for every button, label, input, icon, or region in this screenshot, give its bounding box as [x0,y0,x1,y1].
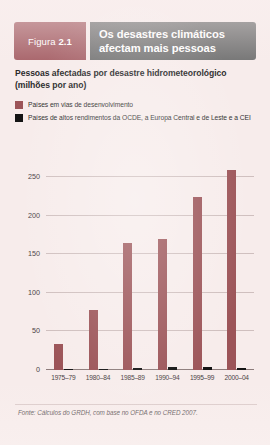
y-axis-tick-0: 0 [36,365,40,374]
figure-card: Figura 2.1 Os desastres climáticos afect… [0,0,270,445]
y-axis-tick-100: 100 [28,287,40,296]
bar-developing [54,344,63,370]
legend-label-highincome: Países de altos rendimentos da OCDE, a E… [28,114,251,121]
source-note: Fonte: Cálculos do GRDH, com base no OFD… [18,409,258,416]
figure-title-line-2: afectam mais pessoas [99,41,247,55]
figure-title-block: Os desastres climáticos afectam mais pes… [90,22,256,60]
chart-subtitle-line-2: (milhões por ano) [15,80,259,92]
x-axis-label: 1975–79 [46,374,81,381]
figure-title-line-1: Os desastres climáticos [99,27,247,41]
legend-item-highincome: Países de altos rendimentos da OCDE, a E… [15,112,263,123]
y-axis-tick-200: 200 [28,210,40,219]
footer-divider [15,404,257,405]
figure-number-badge: Figura 2.1 [14,22,86,60]
bar-developing [193,197,202,370]
bar-developing [158,239,167,370]
bar-highincome [168,367,177,370]
bar-developing [89,310,98,370]
y-axis-tick-150: 150 [28,249,40,258]
bar-highincome [133,368,142,370]
figure-number-value: 2.1 [58,36,72,47]
bar-group [185,158,220,370]
x-axis-label: 1985–89 [115,374,150,381]
chart-subtitle-line-1: Pessoas afectadas por desastre hidromete… [15,68,259,80]
bars-layer [46,158,254,370]
legend-label-developing: Países em vias de desenvolvimento [28,101,133,108]
x-axis-label: 2000–04 [219,374,254,381]
chart-subtitle: Pessoas afectadas por desastre hidromete… [15,68,259,91]
bar-highincome [203,367,212,370]
figure-number-prefix: Figura [28,36,58,47]
bar-group [150,158,185,370]
x-axis-label: 1980–84 [81,374,116,381]
figure-number-label: Figura 2.1 [28,36,72,47]
bar-group [115,158,150,370]
legend-swatch-icon-highincome [15,114,23,122]
y-axis-tick-50: 50 [32,326,40,335]
x-axis-labels: 1975–791980–841985–891990–941995–992000–… [46,374,254,381]
bar-developing [227,170,236,370]
bar-highincome [64,369,73,370]
bar-highincome [99,369,108,370]
chart-legend: Países em vias de desenvolvimento Países… [15,99,263,125]
bar-group [219,158,254,370]
legend-item-developing: Países em vias de desenvolvimento [15,99,263,110]
bar-highincome [237,368,246,370]
x-axis-label: 1990–94 [150,374,185,381]
bar-group [46,158,81,370]
x-axis-label: 1995–99 [185,374,220,381]
bar-chart: 050100150200250 1975–791980–841985–89199… [0,128,270,398]
y-axis-tick-250: 250 [28,172,40,181]
figure-header: Figura 2.1 Os desastres climáticos afect… [14,22,256,60]
bar-developing [123,243,132,370]
plot-area: 050100150200250 [46,158,254,370]
bar-group [81,158,116,370]
legend-swatch-icon-developing [15,101,23,109]
